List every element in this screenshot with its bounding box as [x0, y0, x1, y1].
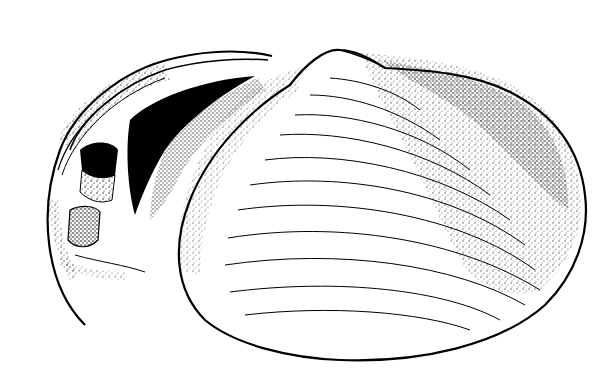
left-valve — [48, 52, 272, 325]
shell-illustration — [0, 0, 601, 389]
shell-drawing — [0, 0, 601, 389]
